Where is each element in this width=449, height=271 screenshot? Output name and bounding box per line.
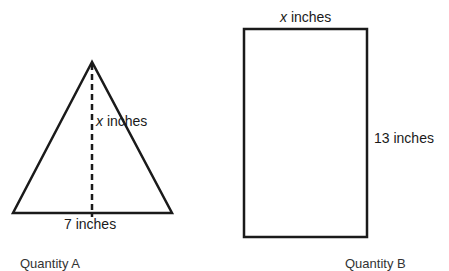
variable-x: x [280, 9, 287, 25]
rectangle-shape [244, 29, 367, 237]
triangle-base-label: 7 inches [64, 216, 116, 232]
unit-text: inches [287, 9, 331, 25]
quantity-a-caption: Quantity A [20, 257, 80, 271]
variable-x: x [96, 113, 103, 129]
triangle-height-label: x inches [96, 113, 147, 129]
rectangle-width-label: x inches [280, 9, 331, 25]
quantity-b-caption: Quantity B [345, 257, 406, 271]
unit-text: inches [103, 113, 147, 129]
rectangle-height-label: 13 inches [374, 130, 434, 146]
